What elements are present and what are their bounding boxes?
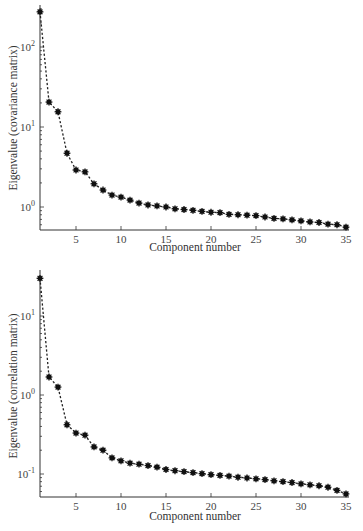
- data-point-marker: [271, 215, 278, 222]
- data-point-marker: [55, 108, 62, 115]
- y-tick-label: 102: [20, 39, 35, 53]
- data-point-marker: [343, 490, 350, 497]
- data-point-marker: [46, 374, 53, 381]
- data-point-marker: [190, 469, 197, 476]
- data-point-marker: [325, 484, 332, 491]
- data-point-marker: [199, 470, 206, 477]
- data-point-marker: [127, 460, 134, 467]
- data-point-marker: [172, 467, 179, 474]
- data-point-marker: [109, 192, 116, 199]
- data-point-marker: [55, 384, 62, 391]
- data-point-marker: [235, 474, 242, 481]
- data-point-marker: [100, 447, 107, 454]
- data-point-marker: [109, 454, 116, 461]
- data-series-line: [40, 278, 346, 494]
- data-point-marker: [307, 481, 314, 488]
- data-point-marker: [82, 432, 89, 439]
- data-points: [37, 275, 350, 497]
- data-point-marker: [262, 214, 269, 221]
- bottom-ylabel: Eigenvalue (correlation matrix): [7, 301, 19, 471]
- data-point-marker: [217, 209, 224, 216]
- data-point-marker: [91, 180, 98, 187]
- figure: 5101520253035100101102 Component number …: [0, 0, 363, 531]
- data-point-marker: [172, 205, 179, 212]
- data-point-marker: [118, 457, 125, 464]
- data-point-marker: [190, 207, 197, 214]
- data-point-marker: [154, 203, 161, 210]
- data-point-marker: [316, 219, 323, 226]
- data-point-marker: [208, 471, 215, 478]
- y-tick-label: 100: [20, 199, 35, 213]
- data-point-marker: [244, 212, 251, 219]
- covariance-eigenvalue-chart: 5101520253035100101102: [0, 0, 363, 265]
- data-point-marker: [37, 275, 44, 282]
- data-point-marker: [244, 475, 251, 482]
- y-tick-label: 10-1: [17, 466, 35, 480]
- data-point-marker: [334, 487, 341, 494]
- data-point-marker: [325, 221, 332, 228]
- data-point-marker: [289, 479, 296, 486]
- top-xlabel: Component number: [40, 241, 350, 253]
- data-point-marker: [280, 215, 287, 222]
- data-point-marker: [343, 224, 350, 231]
- y-tick-label: 101: [20, 308, 35, 322]
- data-point-marker: [235, 211, 242, 218]
- correlation-eigenvalue-chart: 510152025303510-1100101: [0, 265, 363, 531]
- data-point-marker: [181, 206, 188, 213]
- data-point-marker: [136, 461, 143, 468]
- data-point-marker: [154, 464, 161, 471]
- data-point-marker: [253, 475, 260, 482]
- data-point-marker: [217, 472, 224, 479]
- data-point-marker: [73, 167, 80, 174]
- data-point-marker: [37, 8, 44, 15]
- data-point-marker: [118, 194, 125, 201]
- data-point-marker: [46, 99, 53, 106]
- y-tick-label: 100: [20, 387, 35, 401]
- data-point-marker: [226, 473, 233, 480]
- data-point-marker: [298, 480, 305, 487]
- data-point-marker: [271, 477, 278, 484]
- data-point-marker: [73, 430, 80, 437]
- data-point-marker: [145, 462, 152, 469]
- top-ylabel: Eigenvalue (covariance matrix): [7, 33, 19, 203]
- data-point-marker: [253, 212, 260, 219]
- data-point-marker: [136, 200, 143, 207]
- data-point-marker: [334, 221, 341, 228]
- data-point-marker: [298, 218, 305, 225]
- data-point-marker: [100, 187, 107, 194]
- data-point-marker: [262, 476, 269, 483]
- data-points: [37, 8, 350, 230]
- data-point-marker: [316, 482, 323, 489]
- bottom-xlabel: Component number: [40, 510, 350, 522]
- data-point-marker: [82, 168, 89, 175]
- data-point-marker: [280, 478, 287, 485]
- data-point-marker: [91, 444, 98, 451]
- data-point-marker: [163, 204, 170, 211]
- data-point-marker: [64, 421, 71, 428]
- data-point-marker: [64, 150, 71, 157]
- data-point-marker: [163, 466, 170, 473]
- data-point-marker: [226, 211, 233, 218]
- data-point-marker: [307, 219, 314, 226]
- data-point-marker: [289, 216, 296, 223]
- data-point-marker: [208, 209, 215, 216]
- data-series-line: [40, 12, 346, 227]
- data-point-marker: [181, 468, 188, 475]
- data-point-marker: [127, 197, 134, 204]
- data-point-marker: [145, 202, 152, 209]
- y-tick-label: 101: [20, 119, 35, 133]
- data-point-marker: [199, 208, 206, 215]
